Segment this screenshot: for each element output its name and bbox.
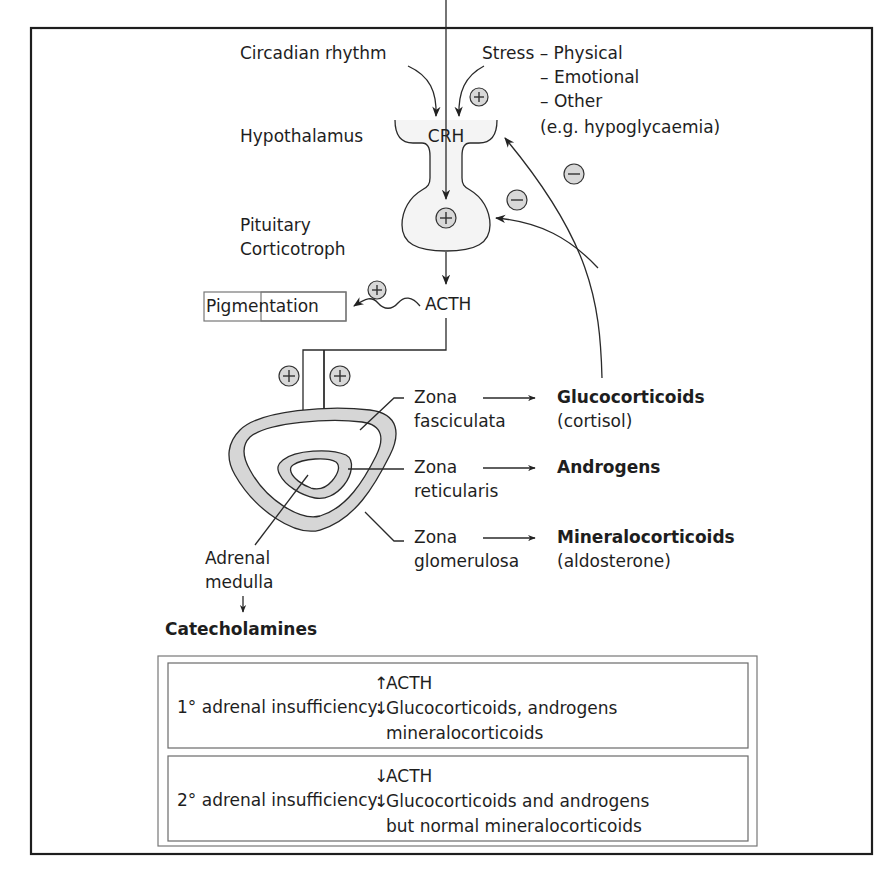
adrenal-medulla-label-2: medulla xyxy=(205,572,273,592)
stimulatory-sign-reticularis xyxy=(330,366,350,386)
glomerulosa-pointer xyxy=(365,512,404,541)
inhibitory-sign-pituitary xyxy=(507,190,527,210)
insufficiency-label: 1° adrenal insufficiency: xyxy=(177,697,382,717)
zone-label-line2: glomerulosa xyxy=(414,551,519,571)
insufficiency-line: but normal mineralocorticoids xyxy=(386,816,642,836)
zone-label-line1: Zona xyxy=(414,457,457,477)
stimulatory-sign-fasciculata xyxy=(279,366,299,386)
zone-row-reticularis: Zona reticularis Androgens xyxy=(414,457,660,501)
insufficiency-label: 2° adrenal insufficiency: xyxy=(177,790,382,810)
insufficiency-line: mineralocorticoids xyxy=(386,723,543,743)
secondary-insufficiency-box: 2° adrenal insufficiency: ↓ ACTH ↓ Gluco… xyxy=(168,756,748,841)
catecholamines-label: Catecholamines xyxy=(165,619,317,639)
zone-label-line1: Zona xyxy=(414,387,457,407)
stress-label: Stress – Physical xyxy=(482,43,623,63)
circadian-arrow xyxy=(408,66,436,116)
insufficiency-line: ACTH xyxy=(386,766,432,786)
stimulatory-sign-pigmentation xyxy=(368,281,386,299)
insufficiency-line: ACTH xyxy=(386,673,432,693)
acth-label: ACTH xyxy=(425,294,471,314)
stimulatory-sign-pituitary xyxy=(436,208,456,228)
zone-product: Glucocorticoids xyxy=(557,387,705,407)
zone-row-glomerulosa: Zona glomerulosa Mineralocorticoids (ald… xyxy=(414,527,735,571)
acth-to-pigmentation-wavy-arrow xyxy=(354,298,420,308)
primary-insufficiency-box: 1° adrenal insufficiency: ↑ ACTH ↓ Gluco… xyxy=(168,663,748,748)
insufficiency-line: Glucocorticoids, androgens xyxy=(386,698,617,718)
zone-product: Androgens xyxy=(557,457,660,477)
zone-product-note: (aldosterone) xyxy=(557,551,671,571)
stress-emotional-label: – Emotional xyxy=(540,67,639,87)
zone-product-note: (cortisol) xyxy=(557,411,632,431)
zone-label-line2: fasciculata xyxy=(414,411,506,431)
inhibitory-sign-hypothalamus xyxy=(564,164,584,184)
hypothalamus-label: Hypothalamus xyxy=(240,126,363,146)
stress-example-label: (e.g. hypoglycaemia) xyxy=(540,117,720,137)
adrenal-medulla-label: Adrenal xyxy=(205,548,270,568)
zone-label-line1: Zona xyxy=(414,527,457,547)
stress-other-label: – Other xyxy=(540,91,602,111)
insufficiency-line: Glucocorticoids and androgens xyxy=(386,791,649,811)
zone-row-fasciculata: Zona fasciculata Glucocorticoids (cortis… xyxy=(414,387,705,431)
stimulatory-sign-stress xyxy=(470,88,488,106)
pituitary-label: Pituitary xyxy=(240,215,311,235)
circadian-rhythm-label: Circadian rhythm xyxy=(240,43,387,63)
pigmentation-label: Pigmentation xyxy=(206,296,319,316)
zone-product: Mineralocorticoids xyxy=(557,527,735,547)
adrenal-gland xyxy=(229,408,396,531)
corticotroph-label: Corticotroph xyxy=(240,239,346,259)
zone-label-line2: reticularis xyxy=(414,481,498,501)
hpa-axis-diagram: Circadian rhythm Stress – Physical – Emo… xyxy=(0,0,890,887)
